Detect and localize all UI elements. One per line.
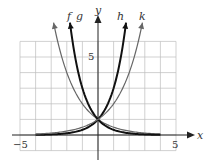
arrow-f-icon [52, 23, 58, 30]
exponential-graph: x y f g h k −5 5 5 [0, 0, 206, 166]
curve-label-k: k [139, 10, 146, 23]
y-axis-label: y [94, 4, 102, 17]
tick-label-y-5: 5 [88, 51, 94, 62]
x-axis-arrow-icon [187, 132, 195, 139]
curve-label-f: f [66, 10, 73, 23]
curve-k [36, 23, 143, 134]
curve-f [54, 23, 161, 134]
arrow-k-icon [138, 23, 144, 30]
curve-label-h: h [117, 10, 124, 23]
tick-label-x-5: 5 [172, 139, 178, 150]
axes [12, 15, 195, 160]
x-axis-label: x [197, 129, 204, 142]
tick-label-x-neg5: −5 [13, 139, 28, 150]
curve-label-g: g [76, 10, 83, 23]
